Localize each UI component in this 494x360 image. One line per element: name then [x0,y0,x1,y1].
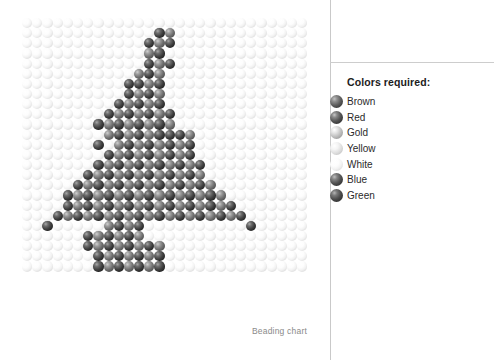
bead [246,251,256,261]
bead [277,140,287,150]
color-legend-label: White [347,159,373,170]
bead [185,170,195,180]
bead [124,231,134,241]
bead [205,211,215,221]
bead [216,130,226,140]
bead [236,170,246,180]
bead-row [22,241,307,251]
bead [175,150,185,160]
bead [134,89,144,99]
bead [104,190,114,200]
bead-row [22,140,307,150]
bead [154,201,164,211]
bead [104,59,114,69]
bead [134,231,144,241]
bead [195,130,205,140]
bead [267,251,277,261]
bead [83,69,93,79]
bead [42,160,52,170]
bead [216,170,226,180]
bead [267,69,277,79]
bead [63,38,73,48]
bead [53,18,63,28]
bead [165,130,175,140]
bead [42,69,52,79]
bead-row [22,59,307,69]
bead [114,18,124,28]
bead [63,180,73,190]
bead [124,109,134,119]
bead [195,150,205,160]
bead [73,221,83,231]
bead-swatch-icon [330,95,343,108]
bead [42,221,52,231]
bead [22,119,32,129]
bead [205,170,215,180]
bead [73,190,83,200]
bead [287,79,297,89]
bead [277,18,287,28]
bead [246,180,256,190]
bead [83,201,93,211]
bead [93,38,103,48]
bead [267,38,277,48]
bead [93,170,103,180]
bead [53,170,63,180]
bead [175,89,185,99]
bead [22,130,32,140]
bead [226,211,236,221]
bead [42,89,52,99]
bead [104,38,114,48]
bead [53,160,63,170]
bead [277,170,287,180]
bead [93,79,103,89]
bead [124,251,134,261]
bead [287,180,297,190]
bead [154,180,164,190]
bead [287,109,297,119]
bead [185,28,195,38]
bead [83,38,93,48]
bead [42,79,52,89]
bead [277,28,287,38]
bead [83,241,93,251]
bead [226,109,236,119]
bead [124,99,134,109]
bead [205,160,215,170]
bead [226,28,236,38]
bead [185,59,195,69]
bead [277,99,287,109]
bead [246,160,256,170]
bead [83,48,93,58]
bead [63,119,73,129]
bead [216,28,226,38]
bead [73,150,83,160]
bead [63,150,73,160]
bead [22,180,32,190]
bead [256,69,266,79]
bead [195,69,205,79]
bead [226,190,236,200]
bead [104,89,114,99]
bead [144,109,154,119]
bead [236,160,246,170]
bead [226,150,236,160]
bead [267,48,277,58]
bead [32,69,42,79]
bead [165,170,175,180]
bead [134,201,144,211]
bead-swatch-icon [330,142,343,155]
bead [53,201,63,211]
bead [205,180,215,190]
bead [144,130,154,140]
bead [256,221,266,231]
bead [175,221,185,231]
bead-row [22,190,307,200]
bead [32,211,42,221]
bead [22,211,32,221]
bead [73,251,83,261]
bead [195,231,205,241]
bead [93,119,103,129]
bead [267,59,277,69]
bead [185,160,195,170]
